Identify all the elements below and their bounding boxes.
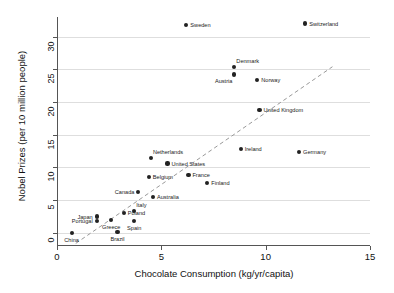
x-axis-title: Chocolate Consumption (kg/yr/capita) <box>58 268 370 279</box>
data-point-label: United Kingdom <box>263 107 303 113</box>
data-point-label: Australia <box>157 194 179 200</box>
x-tick-label: 10 <box>260 251 271 262</box>
data-point-label: France <box>192 172 209 178</box>
data-point <box>95 219 99 223</box>
data-point-label: Norway <box>261 77 280 83</box>
plot-area: 051015202530 051015 SwedenSwitzerlandDen… <box>57 17 370 246</box>
data-point <box>95 214 99 218</box>
data-point-label: Italy <box>136 202 146 208</box>
trend-line <box>57 17 370 246</box>
data-point-label: Germany <box>303 149 326 155</box>
data-point-label: Sweden <box>190 22 210 28</box>
data-point-label: Finland <box>211 180 229 186</box>
data-point-label: Ireland <box>245 146 262 152</box>
data-point <box>165 161 169 165</box>
y-axis-title: Nobel Prizes (per 10 million people) <box>14 6 30 246</box>
data-point-label: United States <box>172 161 206 167</box>
y-tick-label: 5 <box>47 205 56 210</box>
y-tick-label: 15 <box>47 139 56 149</box>
y-tick-label: 0 <box>47 237 56 242</box>
x-tick-label: 0 <box>54 251 59 262</box>
data-point <box>186 173 190 177</box>
data-point-label: Greece <box>102 224 120 230</box>
x-tick-mark <box>266 246 267 250</box>
data-point <box>257 108 261 112</box>
x-tick-label: 15 <box>365 251 376 262</box>
data-point-label: Netherlands <box>153 149 183 155</box>
x-tick-mark <box>161 246 162 250</box>
y-tick-label: 30 <box>47 41 56 51</box>
x-tick-mark <box>57 246 58 250</box>
scatter-chart-figure: Nobel Prizes (per 10 million people) Cho… <box>0 0 394 293</box>
data-point-label: Denmark <box>236 58 259 64</box>
data-point-label: Canada <box>115 189 135 195</box>
data-point-label: Austria <box>215 78 232 84</box>
data-point <box>239 147 243 151</box>
data-point <box>151 195 155 199</box>
data-point <box>297 150 301 154</box>
data-point-label: Spain <box>127 225 141 231</box>
data-point-label: Brazil <box>111 236 125 242</box>
y-tick-label: 25 <box>47 74 56 84</box>
x-tick-mark <box>370 246 371 250</box>
data-point <box>70 231 74 235</box>
y-tick-label: 10 <box>47 172 56 182</box>
data-point-label: Belgium <box>153 174 173 180</box>
data-point-label: Portugal <box>72 218 93 224</box>
y-tick-label: 20 <box>47 107 56 117</box>
data-point <box>115 230 119 234</box>
data-point-label: Switzerland <box>309 21 338 27</box>
data-point-label: Poland <box>128 210 145 216</box>
data-point-label: China <box>64 237 79 243</box>
x-tick-label: 5 <box>159 251 164 262</box>
